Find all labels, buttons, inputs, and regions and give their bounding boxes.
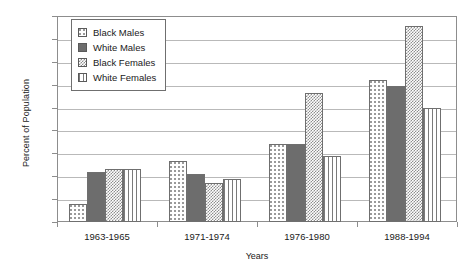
bar (205, 183, 223, 222)
x-axis-tick-mark (357, 222, 358, 227)
bar (69, 204, 87, 222)
y-axis-tick-mark (52, 176, 57, 177)
bar (105, 169, 123, 222)
legend-item: White Males (78, 40, 156, 55)
bar (423, 108, 441, 222)
bar (287, 144, 305, 222)
x-axis-tick-label: 1971-1974 (152, 231, 262, 242)
legend-item: White Females (78, 70, 156, 85)
y-axis-tick-mark (52, 153, 57, 154)
legend-swatch-icon (78, 73, 87, 82)
legend-label: Black Females (93, 57, 155, 68)
legend-label: White Females (93, 72, 156, 83)
legend: Black MalesWhite MalesBlack FemalesWhite… (71, 19, 166, 91)
bar (223, 179, 241, 222)
bar (269, 144, 287, 222)
bar (323, 156, 341, 222)
legend-swatch-icon (78, 43, 87, 52)
x-axis-tick-mark (457, 222, 458, 227)
x-axis-tick-mark (157, 222, 158, 227)
x-axis-tick-label: 1963-1965 (52, 231, 162, 242)
x-axis-tick-mark (257, 222, 258, 227)
y-axis-tick-mark (52, 108, 57, 109)
bar-chart: Percent of Population 024681012141618 19… (0, 0, 465, 279)
y-axis-tick-mark (52, 16, 57, 17)
y-axis-tick-mark (52, 199, 57, 200)
bar (405, 26, 423, 222)
y-axis-tick-mark (52, 39, 57, 40)
x-axis-tick-mark (57, 222, 58, 227)
legend-label: Black Males (93, 27, 144, 38)
bar (123, 169, 141, 222)
x-axis-title: Years (57, 251, 457, 261)
bar (305, 93, 323, 222)
bar (87, 172, 105, 222)
legend-swatch-icon (78, 58, 87, 67)
y-axis-tick-mark (52, 62, 57, 63)
bar (387, 86, 405, 222)
bar (369, 80, 387, 222)
y-axis-title: Percent of Population (21, 53, 31, 193)
bar (187, 174, 205, 222)
y-axis-tick-mark (52, 85, 57, 86)
bar (169, 161, 187, 222)
x-axis-tick-label: 1988-1994 (352, 231, 462, 242)
legend-swatch-icon (78, 28, 87, 37)
legend-item: Black Males (78, 25, 156, 40)
x-axis-tick-label: 1976-1980 (252, 231, 362, 242)
legend-item: Black Females (78, 55, 156, 70)
legend-label: White Males (93, 42, 145, 53)
y-axis-tick-mark (52, 130, 57, 131)
